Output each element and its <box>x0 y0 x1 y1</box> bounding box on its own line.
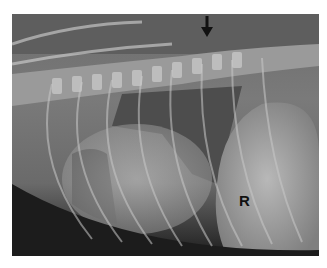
annotation-label-r: R <box>239 192 250 209</box>
radiograph <box>12 14 319 256</box>
down-arrow-icon <box>200 16 214 38</box>
radiograph-image <box>12 14 319 256</box>
